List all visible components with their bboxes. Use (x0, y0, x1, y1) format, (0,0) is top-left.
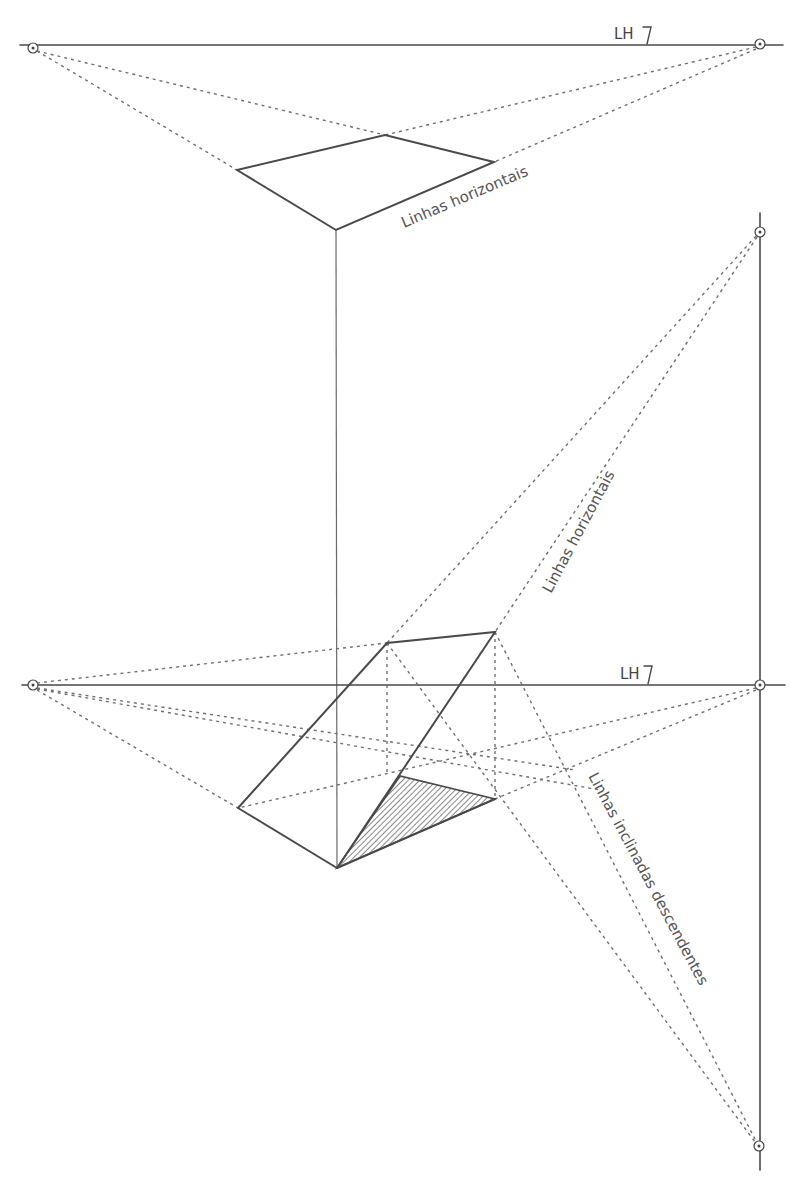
perspective-drawing: LH Linhas horizontais LH (0, 0, 790, 1183)
lower-diagram: LH (22, 227, 785, 1151)
vanishing-point-upper-vertical (755, 227, 765, 237)
construction-line (385, 47, 756, 135)
vanishing-point-top-left (28, 43, 38, 53)
vertical-projection-line (336, 230, 337, 868)
lh-tick-bottom (644, 666, 652, 684)
lh-tick-top (643, 27, 651, 44)
annotation-descending-lines: Linhas inclinadas descendentes (584, 769, 712, 988)
lh-label-top: LH (614, 25, 634, 43)
shaded-face (337, 776, 495, 868)
vanishing-point-lower-vertical (754, 1141, 764, 1151)
annotation-horizontal-lines-mid: Linhas horizontais (539, 467, 619, 596)
construction-line (495, 237, 757, 632)
construction-line (495, 690, 756, 799)
construction-line (37, 689, 600, 790)
construction-line (387, 236, 756, 643)
construction-line (495, 632, 756, 1141)
construction-line (238, 688, 756, 808)
construction-line (37, 51, 237, 170)
lh-label-bottom: LH (620, 665, 640, 683)
construction-line (37, 643, 387, 683)
construction-line (387, 643, 755, 1142)
annotation-horizontal-lines-top: Linhas horizontais (399, 162, 531, 232)
vanishing-point-right (755, 680, 765, 690)
upper-diagram: LH Linhas horizontais (20, 25, 783, 232)
horizontal-plane-quad (237, 135, 494, 230)
construction-line (494, 49, 756, 162)
construction-line (37, 51, 385, 135)
vanishing-point-top-right (755, 39, 765, 49)
construction-line (37, 690, 238, 808)
vanishing-point-left (28, 680, 38, 690)
construction-line (37, 688, 575, 770)
